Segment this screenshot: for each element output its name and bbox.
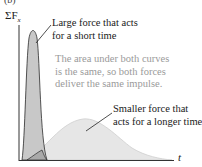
small-force-line-2: acts for a longer time — [113, 116, 202, 129]
tall-force-curve — [22, 31, 47, 161]
large-force-annotation: Large force that acts for a short time — [52, 17, 138, 42]
small-force-annotation: Smaller force that acts for a longer tim… — [113, 103, 202, 128]
leader-line-large — [36, 25, 51, 43]
small-force-line-1: Smaller force that — [113, 103, 202, 116]
equal-area-line-2: is the same, so both forces — [55, 66, 169, 79]
y-axis-label-subscript: x — [18, 16, 21, 24]
large-force-line-2: for a short time — [52, 30, 138, 43]
equal-area-annotation: The area under both curves is the same, … — [55, 53, 169, 91]
equal-area-line-1: The area under both curves — [55, 53, 169, 66]
large-force-line-1: Large force that acts — [52, 17, 138, 30]
equal-area-line-3: deliver the same impulse. — [55, 78, 169, 91]
y-axis-label-text: ΣF — [5, 9, 18, 21]
x-axis-label: t — [178, 151, 181, 163]
y-axis-label: ΣFx — [5, 9, 21, 24]
